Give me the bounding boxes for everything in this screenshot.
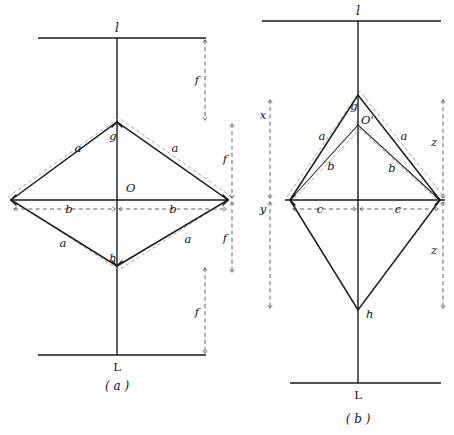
diagram-a-center-label-O: O [126,181,136,195]
diagram-b-dim-label-x: x [260,108,267,122]
diagram-a-ghost-outline [8,118,232,270]
diagram-canvas: l L [0,0,454,435]
diagram-b-side-label-outer-right: a [401,129,408,143]
diagram-a-vertex-ticks [11,122,228,266]
diagram-a-side-label-upper-left: a [75,141,82,155]
diagram-b-vertex-label-O-prime: O' [361,113,374,127]
diagram-b-outer-triangle [290,95,440,200]
diagram-b-vertex-label-g: g [350,99,357,113]
diagram-b-dim-label-z-upper: z [430,135,438,149]
diagram-a-dim-label-f-upper-inner: f [222,152,229,166]
diagram-a-dim-label-f-bottom: f [194,305,201,319]
diagram-a-half-width-label-left: b [65,202,72,216]
diagram-a-group: l L [8,20,232,393]
diagram-a-label-L: L [113,360,121,374]
diagram-a-label-l: l [115,20,119,35]
diagram-a-dim-label-f-lower-inner: f [222,231,229,245]
diagram-b-ghost-outline [287,91,444,203]
diagram-b-dim-label-y: y [259,202,267,216]
diagram-b-caption: ( b ) [346,412,371,426]
diagram-a-side-label-lower-right: a [185,232,192,246]
diagram-b-half-base-label-right: c [395,202,402,216]
diagram-b-label-L: L [354,388,362,402]
diagram-b-inner-triangle [290,125,440,200]
diagram-b-label-l: l [356,3,360,18]
diagram-b-dim-label-z-lower: z [430,243,438,257]
diagram-a-rhombus [11,122,228,266]
diagram-a-dim-label-f-top: f [194,73,201,87]
diagram-a-caption: ( a ) [105,379,129,393]
diagram-a-half-width-label-right: b [169,202,176,216]
diagram-a-vertex-label-h: h [109,251,116,265]
diagram-b-vertex-label-h: h [366,307,373,321]
diagram-b-group: l L [259,3,445,426]
diagram-a-side-label-lower-left: a [60,236,67,250]
diagram-a-side-label-upper-right: a [172,141,179,155]
diagram-b-side-label-inner-right: b [388,161,395,175]
figure-root: l L [0,0,454,435]
diagram-b-side-label-outer-left: a [319,129,326,143]
diagram-b-half-base-label-left: c [317,202,324,216]
diagram-a-vertex-label-g: g [109,129,116,143]
diagram-b-lower-triangle [290,200,440,310]
diagram-b-side-label-inner-left: b [327,159,334,173]
